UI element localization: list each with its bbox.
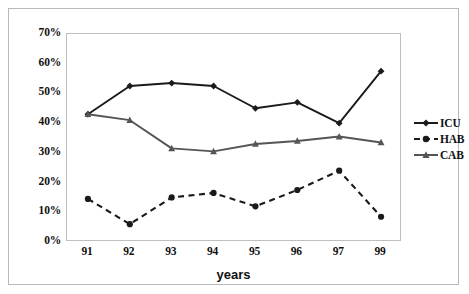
series-hab [85, 168, 384, 228]
chart-frame: 0%10%20%30%40%50%60%70% 9192939495969799… [8, 8, 459, 285]
x-axis: 9192939495969799 [66, 245, 401, 261]
legend-marker-circle-icon [413, 132, 439, 146]
series-line [88, 71, 381, 123]
data-point [85, 196, 91, 202]
legend-marker-diamond-icon [413, 116, 439, 130]
data-point [336, 168, 342, 174]
data-point [294, 99, 301, 106]
y-axis-tick-label: 50% [9, 86, 61, 97]
x-axis-tick-label: 95 [234, 245, 274, 258]
y-axis-tick-label: 70% [9, 27, 61, 38]
data-point [127, 221, 133, 227]
legend-item-cab[interactable]: CAB [413, 147, 469, 163]
y-axis-tick-label: 30% [9, 146, 61, 157]
y-axis: 0%10%20%30%40%50%60%70% [9, 33, 61, 241]
x-axis-tick-label: 94 [193, 245, 233, 258]
plot-area [66, 33, 401, 241]
y-axis-tick-label: 40% [9, 116, 61, 127]
legend-item-icu[interactable]: ICU [413, 115, 469, 131]
x-axis-tick-label: 96 [276, 245, 316, 258]
series-line [88, 114, 381, 151]
legend-label: HAB [439, 133, 464, 145]
legend-marker-triangle-icon [413, 148, 439, 162]
x-axis-tick-label: 91 [67, 245, 107, 258]
plot-svg [67, 34, 402, 242]
y-axis-tick-label: 0% [9, 235, 61, 246]
data-point [378, 214, 384, 220]
legend-label: CAB [439, 149, 464, 161]
series-cab [85, 111, 385, 155]
y-axis-tick-label: 60% [9, 57, 61, 68]
x-axis-title: years [66, 267, 401, 282]
chart-legend: ICUHABCAB [413, 115, 469, 163]
y-axis-tick-label: 20% [9, 176, 61, 187]
legend-item-hab[interactable]: HAB [413, 131, 469, 147]
legend-label: ICU [439, 117, 461, 129]
data-point [168, 80, 175, 87]
data-point [294, 187, 300, 193]
x-axis-tick-label: 93 [151, 245, 191, 258]
data-point [252, 203, 258, 209]
data-point [210, 83, 217, 90]
y-axis-tick-label: 10% [9, 205, 61, 216]
x-axis-tick-label: 92 [109, 245, 149, 258]
x-axis-tick-label: 99 [360, 245, 400, 258]
series-line [88, 171, 381, 224]
x-axis-tick-label: 97 [318, 245, 358, 258]
data-point [210, 190, 216, 196]
data-point [169, 194, 175, 200]
data-point [252, 105, 259, 112]
